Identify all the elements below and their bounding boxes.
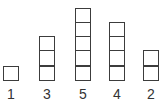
block-column-2 — [39, 37, 55, 81]
unit-square — [143, 50, 159, 65]
unit-square — [39, 66, 55, 81]
column-count-label: 2 — [141, 87, 161, 101]
unit-square — [75, 8, 91, 23]
unit-square — [75, 22, 91, 37]
unit-square — [109, 36, 125, 51]
block-column-3 — [75, 9, 91, 81]
unit-square — [39, 50, 55, 65]
unit-square — [143, 66, 159, 81]
column-count-label: 4 — [107, 87, 127, 101]
unit-square — [39, 36, 55, 51]
column-count-label: 3 — [37, 87, 57, 101]
column-count-label: 5 — [73, 87, 93, 101]
block-stack-diagram: 13542 — [0, 0, 166, 109]
unit-square — [75, 36, 91, 51]
unit-square — [109, 22, 125, 37]
block-column-5 — [143, 52, 159, 81]
block-column-1 — [3, 66, 19, 81]
unit-square — [109, 50, 125, 65]
block-column-4 — [109, 23, 125, 81]
column-count-label: 1 — [1, 87, 21, 101]
unit-square — [75, 50, 91, 65]
unit-square — [3, 66, 19, 81]
unit-square — [75, 66, 91, 81]
unit-square — [109, 66, 125, 81]
